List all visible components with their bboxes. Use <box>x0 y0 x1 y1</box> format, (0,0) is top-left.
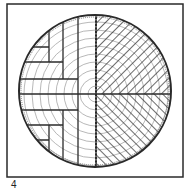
figure-number: 4 <box>11 179 17 190</box>
quarter-sawn-top <box>96 10 176 94</box>
quarter-sawn-bottom <box>96 94 176 174</box>
log-section <box>18 10 176 175</box>
log-sawing-diagram <box>0 0 186 193</box>
